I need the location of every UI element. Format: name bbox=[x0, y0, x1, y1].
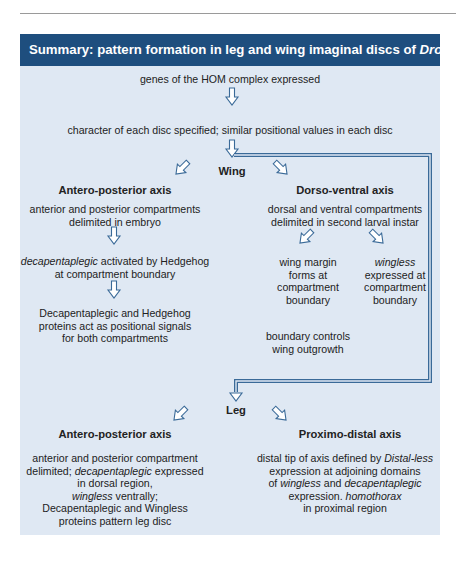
wing-ap-step2: decapentaplegic activated by Hedgehog at… bbox=[20, 255, 210, 280]
arrow-down-left-icon bbox=[296, 227, 317, 248]
text-line: boundary bbox=[355, 294, 435, 307]
text-line: delimited in second larval instar bbox=[255, 216, 435, 229]
text-span: expressed bbox=[152, 465, 204, 477]
leg-pd-title: Proximo-distal axis bbox=[290, 428, 410, 441]
arrow-down-icon bbox=[226, 88, 238, 105]
text-line: compartment bbox=[268, 281, 348, 294]
text-line: anterior and posterior compartment bbox=[20, 452, 210, 465]
text-line: Decapentaplegic and Hedgehog bbox=[20, 307, 210, 320]
gene-italic: decapentaplegic bbox=[75, 465, 152, 477]
arrow-down-right-icon bbox=[367, 227, 388, 248]
wing-label: Wing bbox=[200, 165, 264, 178]
wing-dv-margin: wing margin forms at compartment boundar… bbox=[268, 256, 348, 306]
text-line: at compartment boundary bbox=[20, 268, 210, 281]
gene-italic: wingless bbox=[375, 256, 416, 268]
leg-ap-title: Antero-posterior axis bbox=[40, 428, 190, 441]
text-line: in proximal region bbox=[255, 502, 435, 515]
text-line: for both compartments bbox=[20, 332, 210, 345]
text-line: wing margin bbox=[268, 256, 348, 269]
gene-italic: Distal-less bbox=[384, 452, 433, 464]
arrow-down-left-icon bbox=[172, 158, 193, 179]
text-line: forms at bbox=[268, 269, 348, 282]
leg-pd-text: distal tip of axis defined by Distal-les… bbox=[255, 452, 435, 515]
wing-ap-step3: Decapentaplegic and Hedgehog proteins ac… bbox=[20, 307, 210, 345]
wing-dv-title: Dorso-ventral axis bbox=[290, 184, 400, 197]
text-span: and bbox=[321, 477, 345, 489]
text-line: Decapentaplegic and Wingless bbox=[20, 502, 210, 515]
wing-dv-wingless: wingless expressed at compartment bounda… bbox=[355, 256, 435, 306]
arrow-down-icon bbox=[108, 227, 120, 244]
text-line: compartment bbox=[355, 281, 435, 294]
text-span: expression. bbox=[288, 490, 345, 502]
text-span: distal tip of axis defined by bbox=[257, 452, 384, 464]
text-line: activated by Hedgehog bbox=[98, 255, 209, 267]
wing-dv-outgrowth: boundary controls wing outgrowth bbox=[258, 330, 358, 355]
text-line: proteins pattern leg disc bbox=[20, 515, 210, 528]
text-line: proteins act as positional signals bbox=[20, 320, 210, 333]
step-disc-character: character of each disc specified; simila… bbox=[20, 124, 440, 137]
arrow-down-right-icon bbox=[271, 158, 292, 179]
step-hom-genes: genes of the HOM complex expressed bbox=[20, 73, 440, 86]
text-line: dorsal and ventral compartments bbox=[255, 203, 435, 216]
text-line: boundary bbox=[268, 294, 348, 307]
gene-italic: decapentaplegic bbox=[21, 255, 98, 267]
wing-dv-step1: dorsal and ventral compartments delimite… bbox=[255, 203, 435, 228]
text-span: ventrally; bbox=[113, 490, 158, 502]
gene-italic: wingless bbox=[280, 477, 321, 489]
text-line: in dorsal region, bbox=[20, 477, 210, 490]
text-line: anterior and posterior compartments bbox=[20, 203, 210, 216]
text-line: expressed at bbox=[355, 269, 435, 282]
gene-italic: homothorax bbox=[346, 490, 402, 502]
leg-label: Leg bbox=[216, 404, 256, 417]
text-line: boundary controls bbox=[258, 330, 358, 343]
wing-ap-title: Antero-posterior axis bbox=[40, 184, 190, 197]
arrow-down-icon bbox=[108, 281, 120, 298]
text-line: wing outgrowth bbox=[258, 343, 358, 356]
wing-ap-step1: anterior and posterior compartments deli… bbox=[20, 203, 210, 228]
text-line: delimited in embryo bbox=[20, 216, 210, 229]
text-line: expression at adjoining domains bbox=[255, 465, 435, 478]
gene-italic: decapentaplegic bbox=[344, 477, 421, 489]
arrow-down-right-icon bbox=[270, 404, 291, 425]
text-span: of bbox=[268, 477, 280, 489]
arrow-down-left-icon bbox=[170, 404, 191, 425]
gene-italic: wingless bbox=[72, 490, 113, 502]
leg-ap-text: anterior and posterior compartment delim… bbox=[20, 452, 210, 528]
text-span: delimited; bbox=[26, 465, 74, 477]
